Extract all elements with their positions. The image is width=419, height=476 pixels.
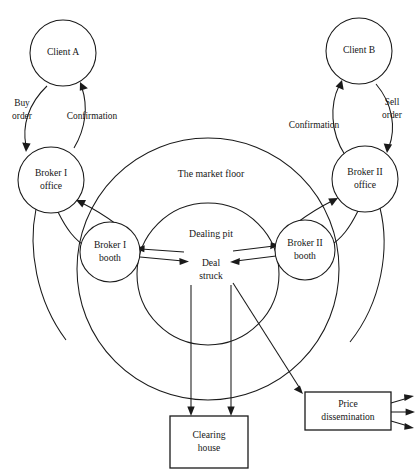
broker1-office-label-line1: Broker I <box>35 167 67 178</box>
price-output-arrowhead-3 <box>404 423 414 430</box>
price-dissemination-label-line1: Price <box>338 398 358 409</box>
buy-order-label-line2: order <box>12 111 33 121</box>
broker2-outer-sweep <box>350 208 384 342</box>
broker2-booth-to-deal-arrowhead <box>230 258 240 265</box>
deal-struck-label-line2: struck <box>199 270 223 281</box>
clearing-house-label-line2: house <box>198 442 220 453</box>
broker2-office-label-line1: Broker II <box>347 166 382 177</box>
client-b-label: Client B <box>343 44 375 55</box>
broker1-office-label-line2: office <box>40 180 62 191</box>
sell-order-arrowhead <box>384 143 392 153</box>
broker2-booth-to-deal-edge <box>236 256 276 261</box>
sell-order-label-line2: order <box>382 110 403 120</box>
confirmation-right-label: Confirmation <box>289 120 340 130</box>
deal-to-price-dissemination-arrowhead <box>294 386 303 394</box>
broker1-booth-to-office-edge <box>82 203 116 224</box>
price-output-arrowhead-2 <box>406 408 415 415</box>
broker1-outer-sweep <box>33 209 66 340</box>
clearing-house-label-line1: Clearing <box>192 429 225 440</box>
broker1-booth-label-line2: booth <box>99 252 121 263</box>
buy-order-label-line1: Buy <box>14 98 30 108</box>
market-floor-diagram: Client A Client B Broker I office Broker… <box>0 0 419 476</box>
price-dissemination-label-line2: dissemination <box>321 411 374 422</box>
market-floor-label: The market floor <box>178 168 245 179</box>
client-a-label: Client A <box>47 46 79 57</box>
sell-order-label-line1: Sell <box>385 97 400 107</box>
diagram-canvas: Client A Client B Broker I office Broker… <box>0 0 419 476</box>
confirmation-left-arrowhead <box>80 82 88 91</box>
broker2-booth-to-office-edge <box>298 201 332 222</box>
deal-struck-label-line1: Deal <box>202 257 220 268</box>
deal-to-clearing-house-arrowhead-right <box>227 407 234 416</box>
confirmation-right-arrowhead <box>336 80 344 90</box>
broker2-office-label-line2: office <box>354 179 376 190</box>
price-output-arrowhead-1 <box>404 394 414 401</box>
deal-to-price-dissemination-edge <box>233 283 299 387</box>
confirmation-left-label: Confirmation <box>67 111 118 121</box>
broker1-booth-to-deal-edge <box>140 257 183 261</box>
broker1-booth-label-line1: Broker I <box>94 239 126 250</box>
deal-to-broker2-booth-edge <box>233 246 274 251</box>
broker2-booth-label-line2: booth <box>294 250 316 261</box>
dealing-pit-label: Dealing pit <box>189 228 233 239</box>
broker1-booth-to-deal-arrowhead <box>179 258 189 265</box>
deal-to-clearing-house-arrowhead-left <box>187 407 194 416</box>
buy-order-arrowhead <box>22 143 30 152</box>
broker2-booth-label-line1: Broker II <box>287 237 322 248</box>
deal-to-broker1-booth-edge <box>141 249 184 252</box>
